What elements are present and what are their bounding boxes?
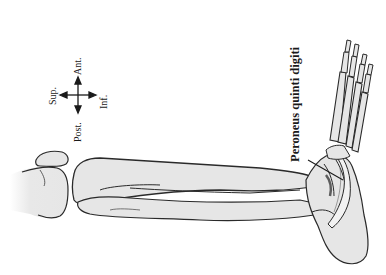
annotation-peroneus-quinti-digiti: Peroneus quinti digiti <box>288 47 303 162</box>
arrow-right-icon <box>89 92 96 98</box>
arrow-left-icon <box>60 92 67 98</box>
anatomy-figure <box>0 0 386 275</box>
compass-label-superior: Sup. <box>47 87 58 105</box>
arrow-up-icon <box>75 77 81 84</box>
arrow-down-icon <box>75 106 81 113</box>
patella <box>36 151 68 166</box>
metatarsals-phalanges <box>326 40 373 159</box>
compass-label-inferior: Inf. <box>98 95 109 109</box>
orientation-compass <box>60 77 96 113</box>
compass-label-posterior: Post. <box>72 122 83 142</box>
fibula <box>78 197 320 221</box>
compass-label-anterior: Ant. <box>72 58 83 76</box>
femur-condyle <box>10 167 68 218</box>
